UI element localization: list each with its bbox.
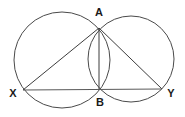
segment-xy	[23, 89, 162, 90]
geometry-canvas: A B X Y	[0, 0, 185, 117]
segment-ay	[99, 28, 162, 89]
point-label-a: A	[95, 6, 103, 18]
left-circle	[14, 12, 110, 108]
point-label-b: B	[96, 96, 104, 108]
geometry-figure: A B X Y	[0, 0, 185, 117]
point-label-x: X	[9, 87, 17, 99]
point-label-y: Y	[167, 87, 175, 99]
